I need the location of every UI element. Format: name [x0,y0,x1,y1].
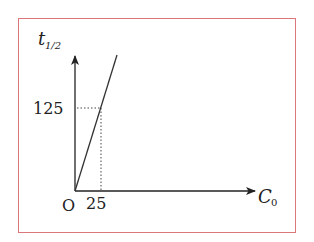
y-axis-label-subscript: 1/2 [45,40,61,51]
chart-canvas: t 1/2 125 O 25 C 0 [0,0,314,242]
x-axis-label: C [258,186,272,207]
origin-label: O [62,196,75,215]
data-line [75,55,117,191]
y-tick-label: 125 [33,99,64,118]
x-tick-label: 25 [86,194,106,213]
x-axis-label-subscript: 0 [271,197,277,208]
